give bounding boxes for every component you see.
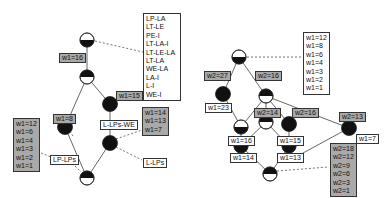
extent-item: w1=3	[16, 145, 37, 153]
extent-item: w2=18	[333, 145, 354, 153]
label-w1-16: w1=16	[228, 136, 255, 146]
label-w1-13: w1=13	[277, 153, 304, 163]
label-w1-14: w1=14	[230, 153, 257, 163]
intent-item: LP-LA	[146, 15, 178, 23]
extent-item: w1=13	[145, 117, 166, 125]
intent-item: LT-LA	[146, 57, 178, 65]
extent-item: w2=6	[333, 170, 354, 178]
extent-item: w1=6	[306, 51, 327, 59]
intent-item: WE-I	[146, 91, 178, 99]
label-w2-13: w2=13	[339, 112, 366, 122]
intent-item: LT-LE	[146, 23, 178, 31]
extent-item: w1=12	[16, 120, 37, 128]
intent-item: LT-LA-I	[146, 40, 178, 48]
label-w1-16: w1=16	[59, 53, 86, 63]
intent-item: LA-I	[146, 74, 178, 82]
lattice-diagram	[0, 0, 387, 198]
bottom-extent-box: w2=18 w2=12 w2=9 w2=6 w2=3 w2=1	[330, 143, 357, 197]
label-w2-16-b: w2=16	[292, 108, 319, 118]
label-w1-23: w1=23	[205, 103, 232, 113]
extent-item: w1=12	[306, 34, 327, 42]
label-w1-7: w1=7	[356, 134, 379, 144]
extent-item: w1=8	[306, 42, 327, 50]
extent-item: w1=1	[16, 162, 37, 170]
label-w2-16: w2=16	[255, 71, 282, 81]
label-w2-27: w2=27	[204, 71, 231, 81]
extent-box-right: w1=14 w1=13 w1=7	[142, 107, 169, 136]
label-w1-8: w1=8	[53, 114, 76, 124]
extent-item: w1=7	[145, 126, 166, 134]
extent-item: w1=2	[16, 154, 37, 162]
extent-box-left: w1=12 w1=6 w1=4 w1=3 w1=2 w1=1	[13, 118, 40, 172]
label-w1-15: w1=15	[277, 136, 304, 146]
extent-item: w1=2	[306, 76, 327, 84]
extent-item: w2=12	[333, 153, 354, 161]
extent-item: w2=3	[333, 179, 354, 187]
extent-item: w1=3	[306, 68, 327, 76]
extent-item: w1=1	[306, 84, 327, 92]
label-w1-15: w1=15	[116, 91, 143, 101]
extent-item: w1=4	[16, 137, 37, 145]
label-lp-lps: LP-LPs	[50, 155, 79, 165]
label-l-lps: L-LPs	[143, 158, 167, 168]
label-w2-14: w2=14	[254, 108, 281, 118]
intent-item: L-I	[146, 82, 178, 90]
top-extent-box: w1=12 w1=8 w1=6 w1=4 w1=3 w1=2 w1=1	[303, 32, 330, 95]
extent-item: w1=4	[306, 59, 327, 67]
left-dashed	[41, 41, 143, 172]
intent-box: LP-LA LT-LE PE-I LT-LA-I LT-LE-LA LT-LA …	[143, 13, 181, 101]
label-l-lps-we: L-LPs-WE	[100, 120, 138, 130]
extent-item: w1=14	[145, 109, 166, 117]
extent-item: w2=1	[333, 187, 354, 195]
intent-item: WE-LA	[146, 65, 178, 73]
extent-item: w2=9	[333, 162, 354, 170]
extent-item: w1=6	[16, 128, 37, 136]
intent-item: PE-I	[146, 32, 178, 40]
intent-item: LT-LE-LA	[146, 49, 178, 57]
